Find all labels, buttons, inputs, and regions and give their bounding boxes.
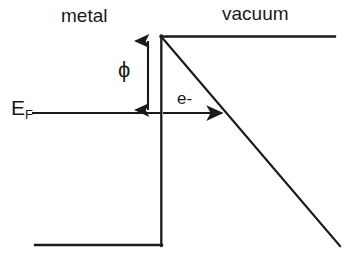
potential-slope-line [162,37,341,246]
diagram-canvas [0,0,349,260]
energy-band-diagram: metal vacuum EF ϕ e- [0,0,349,260]
electron-label: e- [177,90,192,107]
vacuum-region-label: vacuum [222,4,289,23]
fermi-level-symbol: E [11,96,25,119]
fermi-level-label: EF [11,97,33,121]
work-function-label: ϕ [118,59,130,81]
metal-region-label: metal [61,6,107,25]
fermi-level-subscript: F [25,107,33,122]
